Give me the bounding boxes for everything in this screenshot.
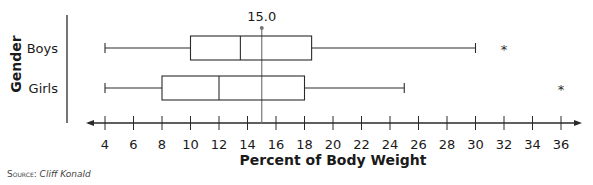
- category-label-girls: Girls: [29, 81, 59, 96]
- x-tick-label: 36: [553, 137, 570, 152]
- y-axis-title: Gender: [8, 35, 24, 92]
- x-tick-label: 30: [467, 137, 484, 152]
- source-value: Cliff Konald: [40, 169, 91, 179]
- iqr-box: [191, 36, 312, 60]
- x-tick-label: 4: [101, 137, 109, 152]
- left-arrow-icon: [86, 120, 94, 126]
- reference-line-group: 15.0: [247, 9, 276, 123]
- box-plot-girls: *: [105, 76, 565, 100]
- x-tick-label: 32: [496, 137, 513, 152]
- x-tick-label: 22: [353, 137, 370, 152]
- x-tick-label: 6: [129, 137, 137, 152]
- box-plots: **: [105, 36, 565, 100]
- box-plot-chart: 4681012141618202224262830323436 15.0 ** …: [0, 0, 593, 185]
- iqr-box: [162, 76, 305, 100]
- x-tick-label: 18: [296, 137, 313, 152]
- category-label-boys: Boys: [27, 41, 59, 56]
- x-tick-label: 34: [524, 137, 541, 152]
- x-tick-label: 14: [239, 137, 256, 152]
- reference-label: 15.0: [247, 9, 276, 24]
- reference-point: [260, 26, 264, 30]
- x-tick-label: 12: [211, 137, 228, 152]
- right-arrow-icon: [574, 120, 582, 126]
- x-tick-label: 20: [325, 137, 342, 152]
- axes: 4681012141618202224262830323436: [67, 15, 582, 152]
- x-tick-label: 16: [268, 137, 285, 152]
- x-tick-label: 26: [410, 137, 427, 152]
- x-axis-title: Percent of Body Weight: [240, 152, 427, 168]
- x-tick-label: 8: [158, 137, 166, 152]
- source-note: Source: Cliff Konald: [7, 169, 91, 179]
- outlier-marker: *: [501, 42, 508, 57]
- x-tick-label: 28: [439, 137, 456, 152]
- x-tick-label: 10: [182, 137, 199, 152]
- x-tick-label: 24: [382, 137, 399, 152]
- outlier-marker: *: [558, 82, 565, 97]
- source-label: Source:: [7, 169, 37, 179]
- box-plot-boys: *: [105, 36, 508, 60]
